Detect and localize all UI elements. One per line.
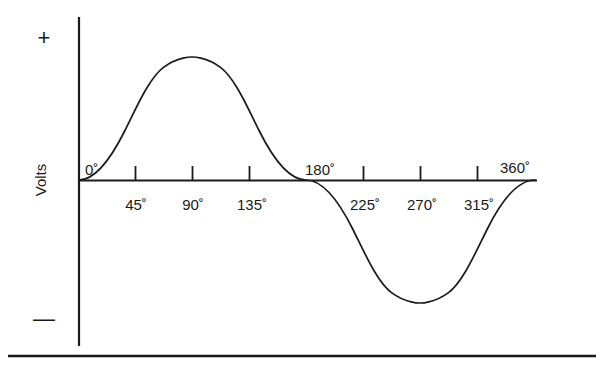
x-label-135deg: 135˚ xyxy=(237,196,267,213)
x-label-45deg: 45˚ xyxy=(125,196,147,213)
chart-canvas: 0˚ 180˚ 360˚ 45˚ 90˚ 135˚ 225˚ 270˚ 315˚… xyxy=(0,0,603,367)
x-label-90deg: 90˚ xyxy=(182,196,204,213)
y-axis-title: Volts xyxy=(32,164,49,197)
x-label-270deg: 270˚ xyxy=(407,196,437,213)
x-label-315deg: 315˚ xyxy=(464,196,494,213)
x-label-0deg: 0˚ xyxy=(85,161,98,178)
sine-wave-figure: 0˚ 180˚ 360˚ 45˚ 90˚ 135˚ 225˚ 270˚ 315˚… xyxy=(0,0,603,367)
x-label-360deg: 360˚ xyxy=(500,159,530,176)
y-axis-minus-sign: — xyxy=(33,306,55,331)
x-label-225deg: 225˚ xyxy=(350,196,380,213)
y-axis-plus-sign: + xyxy=(38,25,51,50)
x-label-180deg: 180˚ xyxy=(305,161,335,178)
